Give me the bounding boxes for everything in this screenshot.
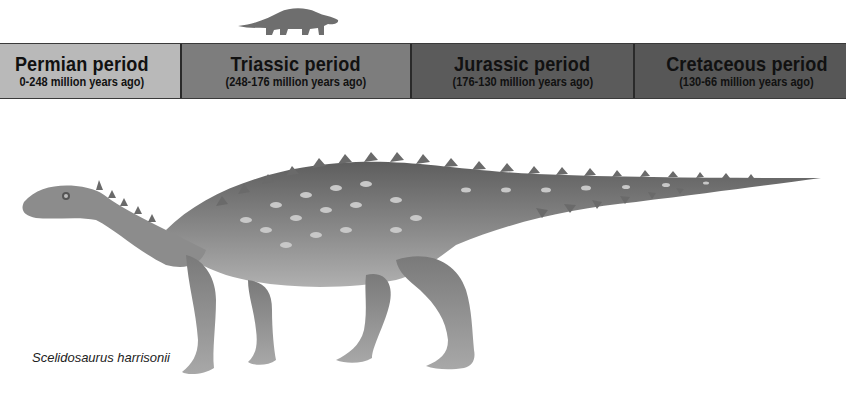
period-name: Permian period [15, 53, 149, 75]
period-range: (130-66 million years ago) [679, 75, 814, 90]
period-range: 0-248 million years ago) [20, 75, 145, 90]
period-permian: Permian period 0-248 million years ago) [0, 44, 182, 98]
period-name: Triassic period [231, 53, 361, 75]
period-triassic: Triassic period (248-176 million years a… [182, 44, 412, 98]
dinosaur-illustration [16, 150, 826, 380]
geologic-timeline: Permian period 0-248 million years ago) … [0, 43, 846, 99]
period-jurassic: Jurassic period (176-130 million years a… [412, 44, 635, 98]
species-caption: Scelidosaurus harrisonii [32, 350, 170, 365]
period-range: (176-130 million years ago) [452, 75, 593, 90]
period-name: Cretaceous period [666, 53, 828, 75]
dinosaur-silhouette-icon [236, 4, 340, 38]
period-name: Jurassic period [454, 53, 590, 75]
period-range: (248-176 million years ago) [226, 75, 367, 90]
period-cretaceous: Cretaceous period (130-66 million years … [635, 44, 846, 98]
